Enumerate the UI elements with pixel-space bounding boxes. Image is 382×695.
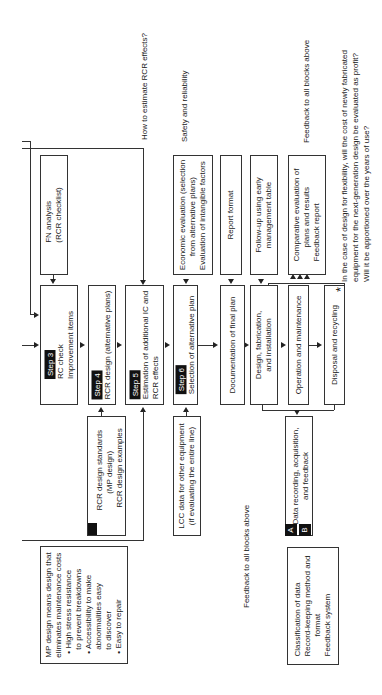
- mp-design-note-box: MP design means design that eliminates m…: [40, 546, 128, 664]
- report-format-box: Report format: [220, 155, 242, 275]
- mp-line-1: MP design means design that: [44, 552, 54, 657]
- step5-box: Step 5 Estimation of additional IC and R…: [125, 285, 164, 405]
- arrow-into-step3-a: [34, 312, 39, 318]
- arrow-economic-step6: [183, 279, 189, 284]
- rcr-standards-text-1: RCR design standards: [95, 430, 104, 510]
- arrow-step4-step5: [117, 342, 122, 348]
- class-line-3: format: [313, 556, 323, 657]
- fn-analysis-line-2: (RCR checklist): [54, 187, 64, 243]
- economic-line-3: Evaluation of intangible factors: [198, 160, 208, 270]
- data-recording-line-2: and feedback: [301, 428, 311, 525]
- feedback-line-top: [22, 148, 144, 149]
- line-to-step5-bottom: [143, 411, 144, 541]
- design-fab-line-1: Design, fabrication,: [254, 311, 264, 379]
- rcr-standards-box: ARCR design standards (MP design) RCR de…: [87, 416, 126, 536]
- arrow-followup-design: [258, 279, 264, 284]
- fn-analysis-box: FN analysis (RCR checklist): [40, 155, 68, 275]
- follow-up-box: Follow-up using early management table: [250, 155, 278, 275]
- step5-line-1: Estimation of additional IC and: [140, 291, 150, 400]
- class-line-2: Record-keeping method and: [303, 556, 313, 657]
- footnote-line-1: In the case of design for flexibility, w…: [340, 50, 350, 282]
- step3-line-1: RC check: [55, 311, 65, 379]
- badge-b-label: B: [299, 527, 311, 532]
- data-recording-badge-b: B: [299, 524, 311, 536]
- footnote-line-3: Will it be apportioned over the years of…: [362, 126, 372, 282]
- economic-line-2: from alternative plans): [188, 160, 198, 270]
- data-recording-bracket-r: [334, 405, 335, 410]
- feedback-bottom-label: Feedback to all blocks above: [242, 505, 252, 608]
- step3-badge: Step 3: [44, 350, 55, 379]
- data-recording-box: Data recording, acquisition, and feedbac…: [285, 416, 313, 536]
- arrow-operation-disposal: [317, 342, 322, 348]
- class-line-1: Classification of data: [293, 556, 303, 657]
- lcc-data-box: LCC data for other equipment (if evaluat…: [173, 416, 201, 536]
- mp-line-2: eliminates maintenance costs: [54, 552, 64, 657]
- classification-note-box: Classification of data Record-keeping me…: [287, 547, 339, 665]
- lcc-line-1: LCC data for other equipment: [177, 423, 187, 528]
- design-fabrication-box: Design, fabrication, and installation: [250, 285, 278, 405]
- disposal-line-1: Disposal and recycling: [330, 305, 340, 385]
- report-format-line-1: Report format: [226, 191, 236, 240]
- step5-line-2: RCR effects: [150, 291, 160, 400]
- class-line-4: Feedback system: [323, 556, 333, 657]
- arrow-to-data-recording: [294, 410, 300, 415]
- economic-evaluation-box: Economic evaluation (selection from alte…: [173, 155, 213, 275]
- feedback-top-label: Feedback to all blocks above: [302, 40, 312, 143]
- rcr-standards-badge-block: [88, 523, 97, 535]
- economic-line-1: Economic evaluation (selection: [178, 160, 188, 270]
- arrow-step6-doc: [213, 342, 218, 348]
- step6-badge: Step 6: [175, 365, 186, 394]
- step4-line-1: RCR design (alternative plans): [103, 291, 113, 400]
- rcr-effects-question: How to estimate RCR effects?: [140, 33, 150, 140]
- safety-reliability-label: Safety and reliability: [180, 70, 190, 142]
- step3-box: Step 3 RC check Improvement items: [40, 285, 78, 405]
- footnote-line-2: equipment for the next-generation design…: [351, 53, 361, 282]
- arrow-report-doc: [228, 279, 234, 284]
- disposal-recycling-box: Disposal and recycling: [324, 285, 345, 405]
- feedback-line-left-h: [30, 314, 36, 315]
- documentation-box: Documentation of final plan: [220, 285, 245, 405]
- mp-line-4: to prevent breakdowns: [74, 552, 84, 657]
- rcr-standards-line-3: RCR design examples: [115, 428, 125, 524]
- mp-line-5: • Accessibility to make: [84, 552, 94, 657]
- operation-line-1: Operation and maintenance: [294, 296, 304, 395]
- line-bottom-horizontal: [22, 540, 144, 541]
- rcr-standards-line-2: (MP design): [105, 428, 115, 524]
- comparative-line-2: plans and results: [302, 169, 312, 262]
- mp-line-3: • High stress resistance: [64, 552, 74, 657]
- step6-line-1: Selection of alternative plan: [186, 296, 196, 394]
- step6-box: Step 6 Selection of alternative plan: [173, 285, 198, 405]
- arrow-step5-step6: [165, 342, 170, 348]
- follow-up-line-1: Follow-up using early: [254, 177, 264, 253]
- mp-line-6: abnormalities easy: [94, 552, 104, 657]
- line-step6-doc: [197, 345, 214, 346]
- comparative-line-3: Feedback report: [312, 169, 322, 262]
- design-fab-line-2: and installation: [264, 311, 274, 379]
- follow-up-line-2: management table: [264, 177, 274, 253]
- data-recording-line-1: Data recording, acquisition,: [291, 428, 301, 525]
- lcc-line-2: (if evaluating the entire line): [187, 423, 197, 528]
- footnote-asterisk: *: [336, 287, 346, 292]
- comparative-line-1: Comparative evaluation of: [292, 169, 302, 262]
- arrow-into-step3-b: [34, 342, 39, 348]
- feedback-right-vertical: [143, 148, 144, 280]
- comparative-evaluation-box: Comparative evaluation of plans and resu…: [288, 155, 326, 275]
- badge-a-label: A: [285, 527, 297, 532]
- step3-line-2: Improvement items: [65, 311, 75, 379]
- arrow-step3-step4: [80, 342, 85, 348]
- fn-analysis-line-1: FN analysis: [44, 187, 54, 243]
- rcr-standards-line-1: ARCR design standards: [94, 428, 105, 524]
- mp-line-7: to discover: [104, 552, 114, 657]
- data-recording-bracket-l: [262, 405, 263, 410]
- arrow-design-operation: [281, 342, 286, 348]
- operation-maintenance-box: Operation and maintenance: [288, 285, 309, 405]
- mp-line-8: • Easy to repair: [114, 552, 124, 657]
- data-recording-badge-a: A: [285, 524, 297, 536]
- comparative-feed-line: [268, 283, 344, 284]
- feedback-line-left-vertical: [30, 141, 31, 315]
- documentation-line-1: Documentation of final plan: [228, 297, 238, 394]
- step5-badge: Step 5: [129, 370, 140, 399]
- step4-badge: Step 4: [92, 370, 103, 399]
- arrow-fn-to-step3: [50, 279, 56, 284]
- step4-box: Step 4 RCR design (alternative plans): [88, 285, 116, 405]
